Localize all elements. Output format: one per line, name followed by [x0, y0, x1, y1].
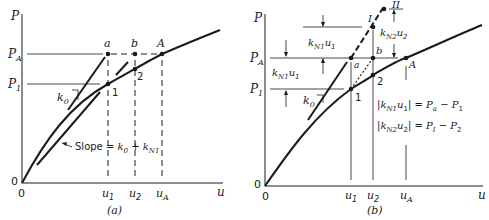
- dim-left-label: kN1u1: [272, 67, 300, 81]
- x-axis-label: u: [478, 188, 486, 202]
- dim-right-label: kN2u2: [380, 27, 408, 41]
- point-1: [349, 87, 354, 92]
- panel-a: P u 0 0 PA P1 k0 a b A 1 2: [7, 9, 225, 217]
- x-axis-label: u: [217, 185, 225, 199]
- origin-y-label: 0: [254, 178, 261, 191]
- point-II-label: II: [391, 0, 401, 10]
- point-A: [160, 52, 165, 57]
- pa-label: PA: [7, 47, 22, 63]
- point-b-label: b: [376, 45, 382, 56]
- arrow-down-icon: [321, 22, 325, 27]
- slope-annotation: Slope = k0 + kN1: [75, 141, 159, 155]
- slope-arrowhead-icon: [62, 142, 67, 146]
- arrow-down-icon: [284, 52, 288, 57]
- caption-a: (a): [107, 204, 122, 217]
- arrow-up-icon: [284, 90, 288, 95]
- k0-label: k0: [57, 91, 69, 106]
- origin-x-label: 0: [18, 187, 25, 200]
- origin-y-label: 0: [11, 175, 18, 188]
- point-b: [371, 56, 376, 61]
- point-a: [349, 56, 354, 61]
- point-I: [371, 25, 376, 30]
- point-A-label: A: [156, 37, 165, 50]
- k0-tangent: [308, 62, 347, 120]
- u2-label: u2: [367, 189, 379, 204]
- equation-2: |kN2u2| = PI − P2: [377, 120, 462, 134]
- point-a-label: a: [354, 60, 359, 70]
- point-A: [404, 56, 409, 61]
- figure-canvas: P u 0 0 PA P1 k0 a b A 1 2: [0, 0, 489, 220]
- uA-label: uA: [400, 189, 413, 204]
- arrow-down-icon: [392, 53, 396, 58]
- point-a: [106, 52, 111, 57]
- dim-upper-label: kN1u1: [308, 37, 336, 51]
- load-curve: [22, 30, 220, 183]
- p1-label: P1: [7, 77, 21, 93]
- p1-label: P1: [249, 82, 263, 98]
- k0-label: k0: [303, 94, 315, 109]
- point-2-label: 2: [137, 71, 143, 82]
- panel-b: P u 0 0 PA P1 k0 a b: [249, 0, 486, 217]
- point-a-label: a: [104, 37, 111, 50]
- u2-label: u2: [129, 187, 141, 202]
- uA-label: uA: [156, 187, 169, 202]
- equation-1: |kN1u1| = Pa − P1: [377, 99, 463, 113]
- origin-x-label: 0: [262, 190, 269, 203]
- point-I-label: I: [367, 13, 373, 24]
- y-axis-label: P: [10, 9, 20, 23]
- arrow-up-icon: [392, 10, 396, 14]
- u1-label: u1: [102, 187, 114, 202]
- u1-label: u1: [345, 189, 357, 204]
- point-1-label: 1: [355, 92, 361, 103]
- arrow-up-icon: [321, 58, 325, 63]
- point-1-label: 1: [112, 87, 118, 98]
- point-2-label: 2: [377, 76, 383, 87]
- point-2: [371, 73, 376, 78]
- caption-b: (b): [367, 204, 383, 217]
- point-II: [382, 7, 387, 12]
- point-A-label: A: [408, 59, 416, 70]
- point-b-label: b: [131, 37, 138, 50]
- k0-tangent: [68, 57, 105, 110]
- y-axis-label: P: [253, 11, 263, 25]
- point-b: [133, 52, 138, 57]
- pa-label: PA: [249, 51, 264, 67]
- point-1: [106, 82, 111, 87]
